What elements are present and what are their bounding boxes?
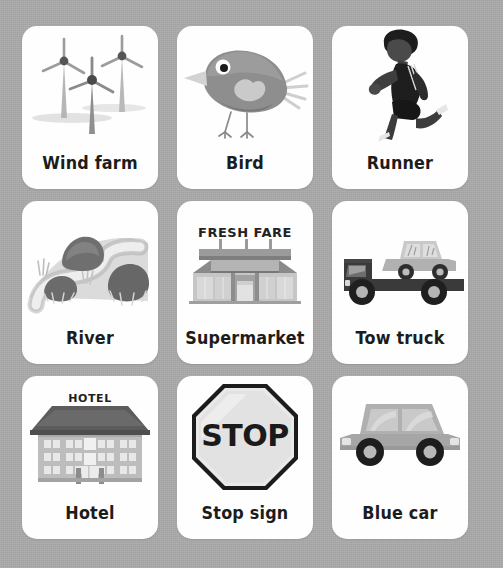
flashcard-runner[interactable]: Runner: [332, 26, 468, 189]
flashcard-blue-car[interactable]: Blue car: [332, 376, 468, 539]
flashcard-stop-sign[interactable]: STOP Stop sign: [177, 376, 313, 539]
river-icon: [22, 201, 158, 319]
hotel-icon: HOTEL: [22, 376, 158, 494]
flashcard-wind-farm[interactable]: Wind farm: [22, 26, 158, 189]
tow-truck-icon: [332, 201, 468, 319]
flashcard-label: Runner: [332, 141, 468, 189]
supermarket-icon: FRESH FARE: [177, 201, 313, 319]
hotel-sign-text: HOTEL: [68, 392, 112, 405]
runner-icon: [332, 26, 468, 144]
flashcard-label: Supermarket: [177, 316, 313, 364]
flashcard-label: Blue car: [332, 491, 468, 539]
car-icon: [332, 376, 468, 494]
flashcard-label: Hotel: [22, 491, 158, 539]
flashcard-label: Tow truck: [332, 316, 468, 364]
stop-sign-text: STOP: [201, 418, 289, 453]
flashcard-supermarket[interactable]: FRESH FARE: [177, 201, 313, 364]
flashcard-river[interactable]: River: [22, 201, 158, 364]
flashcard-label: Bird: [177, 141, 313, 189]
wind-turbines-icon: [22, 26, 158, 144]
bird-icon: [177, 26, 313, 144]
supermarket-sign-text: FRESH FARE: [198, 225, 292, 240]
stop-sign-icon: STOP: [177, 376, 313, 494]
flashcard-label: River: [22, 316, 158, 364]
flashcard-tow-truck[interactable]: Tow truck: [332, 201, 468, 364]
flashcard-label: Wind farm: [22, 141, 158, 189]
flashcard-hotel[interactable]: HOTEL: [22, 376, 158, 539]
flashcard-grid: Wind farm: [22, 26, 481, 542]
flashcard-bird[interactable]: Bird: [177, 26, 313, 189]
flashcard-label: Stop sign: [177, 491, 313, 539]
